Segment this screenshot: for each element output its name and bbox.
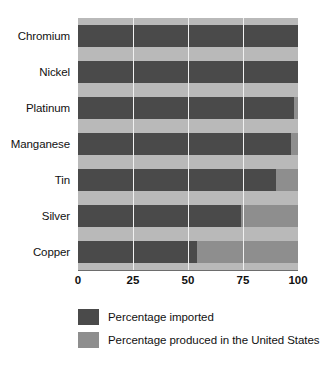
bar-segment-produced bbox=[197, 241, 298, 263]
bar-segment-imported bbox=[78, 97, 294, 119]
bar-segment-produced bbox=[241, 205, 298, 227]
bar-segment-produced bbox=[291, 133, 298, 155]
gridline bbox=[243, 18, 244, 270]
legend-label: Percentage produced in the United States bbox=[108, 334, 320, 346]
x-tick-label: 50 bbox=[168, 273, 208, 287]
legend-item: Percentage produced in the United States bbox=[78, 328, 322, 351]
legend-swatch bbox=[78, 332, 99, 348]
category-label: Silver bbox=[0, 210, 70, 222]
y-axis-category-labels: ChromiumNickelPlatinumManganeseTinSilver… bbox=[0, 18, 74, 270]
x-tick-label: 100 bbox=[278, 273, 318, 287]
legend-label: Percentage imported bbox=[108, 311, 214, 323]
x-tick-label: 25 bbox=[113, 273, 153, 287]
gridline bbox=[188, 18, 189, 270]
bar-segment-imported bbox=[78, 169, 276, 191]
category-label: Nickel bbox=[0, 66, 70, 78]
category-label: Tin bbox=[0, 174, 70, 186]
chart-legend: Percentage importedPercentage produced i… bbox=[78, 305, 322, 351]
category-label: Platinum bbox=[0, 102, 70, 114]
x-tick-label: 0 bbox=[58, 273, 98, 287]
bar-chart: ChromiumNickelPlatinumManganeseTinSilver… bbox=[0, 0, 322, 367]
category-label: Manganese bbox=[0, 138, 70, 150]
category-label: Copper bbox=[0, 246, 70, 258]
x-axis-line bbox=[78, 270, 298, 271]
bar-segment-produced bbox=[276, 169, 298, 191]
gridline bbox=[133, 18, 134, 270]
x-axis-tick-labels: 0255075100 bbox=[0, 273, 322, 289]
plot-area bbox=[78, 18, 298, 270]
legend-item: Percentage imported bbox=[78, 305, 322, 328]
bar-segment-imported bbox=[78, 133, 291, 155]
bar-segment-imported bbox=[78, 241, 197, 263]
bar-segment-imported bbox=[78, 205, 241, 227]
x-tick-label: 75 bbox=[223, 273, 263, 287]
legend-swatch bbox=[78, 309, 99, 325]
category-label: Chromium bbox=[0, 30, 70, 42]
bar-segment-produced bbox=[294, 97, 298, 119]
